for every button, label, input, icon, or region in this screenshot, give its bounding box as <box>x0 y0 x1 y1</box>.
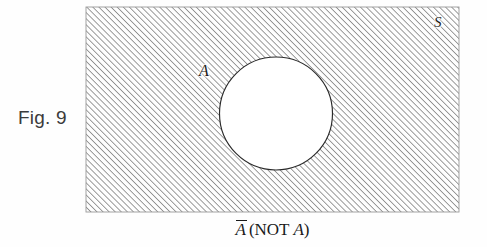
caption-variable: A <box>293 220 303 239</box>
figure-container: Fig. 9 S A A(NOT A) <box>0 0 487 247</box>
universal-set-label: S <box>434 14 442 31</box>
caption-open-paren: (NOT <box>249 220 294 239</box>
figure-caption: A(NOT A) <box>86 219 459 241</box>
caption-complement-symbol: A <box>236 220 247 239</box>
set-a-circle <box>220 57 333 170</box>
set-a-label: A <box>199 62 209 80</box>
venn-diagram <box>0 0 487 247</box>
caption-close-paren: ) <box>304 220 310 239</box>
